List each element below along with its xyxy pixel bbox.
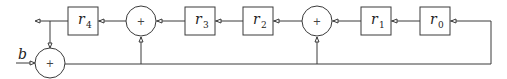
register-r1: r 1 (361, 7, 391, 35)
output-arrow-icon (35, 19, 40, 23)
svg-text:1: 1 (379, 20, 385, 30)
input-arrow-icon (30, 61, 35, 65)
svg-text:2: 2 (261, 20, 267, 30)
adder-1: + (126, 6, 156, 36)
arrow-icon (315, 37, 319, 42)
arrow-icon (451, 19, 456, 23)
arrow-icon (216, 19, 221, 23)
arrow-icon (139, 37, 143, 42)
plus-icon: + (313, 16, 321, 27)
register-r0: r 0 (420, 7, 450, 35)
plus-icon: + (46, 58, 54, 69)
svg-text:3: 3 (203, 20, 209, 30)
lfsr-block-diagram: r 4 r 3 r 2 r 1 r 0 + + + b (0, 0, 507, 79)
plus-icon: + (137, 16, 145, 27)
register-r2: r 2 (243, 7, 273, 35)
adder-input: + (35, 48, 65, 78)
arrow-icon (392, 19, 397, 23)
adder-2: + (302, 6, 332, 36)
register-r3: r 3 (185, 7, 215, 35)
register-r4: r 4 (68, 7, 98, 35)
arrow-icon (99, 19, 104, 23)
arrow-icon (157, 19, 162, 23)
input-label: b (18, 46, 27, 62)
arrow-icon (274, 19, 279, 23)
arrow-icon (48, 43, 52, 48)
svg-text:4: 4 (86, 20, 92, 30)
svg-text:0: 0 (438, 20, 444, 30)
arrow-icon (333, 19, 338, 23)
